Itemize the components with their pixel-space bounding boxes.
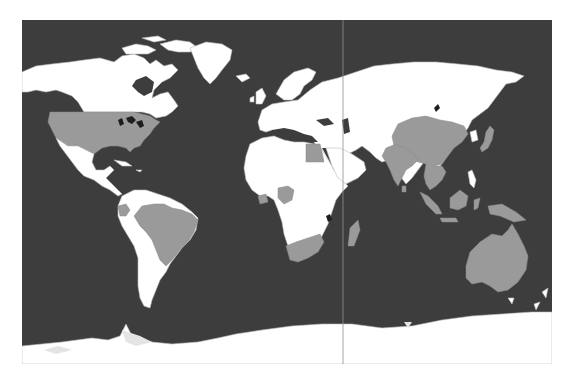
country-cote-divoire: [258, 194, 268, 204]
world-map: [22, 20, 552, 364]
country-sri-lanka: [402, 186, 406, 192]
world-map-svg: [22, 20, 552, 364]
country-indonesia-java: [440, 218, 458, 222]
